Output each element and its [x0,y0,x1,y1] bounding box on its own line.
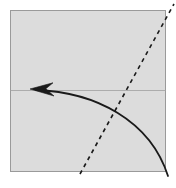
origami-diagram [0,0,176,188]
origami-canvas [0,0,176,188]
paper-square [11,11,166,172]
